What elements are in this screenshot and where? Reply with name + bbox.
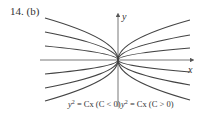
left-family-label: y2 = Cx (C < 0) <box>67 99 121 109</box>
left-parabola-curve <box>45 32 118 60</box>
left-label-rest: = Cx (C < 0) <box>75 99 121 109</box>
curves-group <box>45 18 190 101</box>
left-parabola-curve <box>45 60 118 74</box>
left-parabola-curve <box>45 46 118 60</box>
right-label-rest: = Cx (C > 0) <box>128 99 174 109</box>
left-parabola-curve <box>45 18 118 60</box>
right-parabola-curve <box>118 20 190 60</box>
right-parabola-curve <box>118 60 190 100</box>
x-axis-label: x <box>187 64 193 75</box>
left-parabola-curve <box>45 60 118 88</box>
y-axis-label: y <box>121 11 127 22</box>
parabola-family-figure: x y y2 = Cx (C < 0) y2 = Cx (C > 0) <box>0 0 202 114</box>
left-parabola-curve <box>45 60 118 101</box>
right-parabola-curve <box>118 35 190 60</box>
right-parabola-curve <box>118 60 190 85</box>
right-family-label: y2 = Cx (C > 0) <box>120 99 174 109</box>
